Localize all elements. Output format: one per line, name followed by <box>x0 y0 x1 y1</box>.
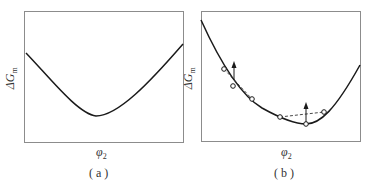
tie-line-left <box>224 69 252 99</box>
point <box>222 67 227 72</box>
data-points <box>222 67 327 127</box>
panel-b-xlabel: φ2 <box>281 145 292 161</box>
panel-b-curve <box>201 20 360 124</box>
panel-a-ylabel: ΔGm <box>3 63 19 93</box>
panel-a-caption: ( a ) <box>89 166 108 181</box>
panel-b-caption: ( b ) <box>274 166 294 181</box>
point <box>250 97 255 102</box>
panel-a-curve <box>26 44 183 116</box>
xlabel-subscript: 2 <box>288 152 292 161</box>
point <box>278 115 283 120</box>
point <box>304 122 309 127</box>
xlabel-subscript: 2 <box>103 152 107 161</box>
ylabel-subscript: m <box>10 67 19 73</box>
arrow-up-icon <box>304 102 309 123</box>
panel-a-xlabel: φ2 <box>96 145 107 161</box>
ylabel-text: ΔG <box>3 73 17 89</box>
ylabel-text: ΔG <box>181 73 195 89</box>
point <box>322 110 327 115</box>
xlabel-text: φ <box>96 145 103 159</box>
xlabel-text: φ <box>281 145 288 159</box>
ylabel-subscript: m <box>188 67 197 73</box>
point <box>231 84 236 89</box>
figure-canvas <box>0 0 368 189</box>
panel-b-ylabel: ΔGm <box>181 63 197 93</box>
tie-line-right <box>280 112 324 117</box>
panel-b-frame <box>202 12 361 142</box>
